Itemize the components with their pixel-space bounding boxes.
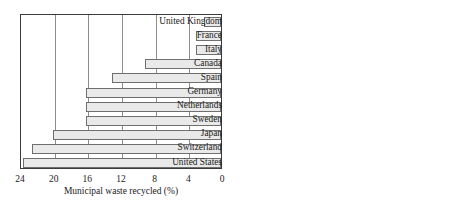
- right-chart-panel: 0204060 Mass of municipal waste recycled…: [227, 0, 454, 223]
- left-bar-spain: [112, 73, 221, 83]
- left-bar-switzerland: [32, 144, 221, 154]
- left-tick-20: 20: [44, 174, 64, 184]
- left-tick-24: 24: [10, 174, 30, 184]
- figure-twin-bar-charts: 24201612840 Municipal waste recycled (%)…: [0, 0, 454, 223]
- left-bar-japan: [53, 130, 221, 140]
- left-tick-16: 16: [77, 174, 97, 184]
- left-bar-france: [196, 31, 221, 41]
- left-tick-12: 12: [111, 174, 131, 184]
- left-bar-sweden: [86, 116, 221, 126]
- left-bar-united-kingdom: [204, 17, 221, 27]
- left-chart-panel: 24201612840 Municipal waste recycled (%): [0, 0, 227, 223]
- left-bar-united-states: [23, 158, 221, 168]
- left-bar-germany: [86, 88, 221, 98]
- left-tick-8: 8: [145, 174, 165, 184]
- left-bar-italy: [196, 45, 221, 55]
- left-bar-netherlands: [86, 102, 221, 112]
- left-x-axis-title: Municipal waste recycled (%): [20, 186, 222, 197]
- left-tick-4: 4: [178, 174, 198, 184]
- left-bar-canada: [145, 59, 221, 69]
- left-plot-area: [20, 14, 222, 169]
